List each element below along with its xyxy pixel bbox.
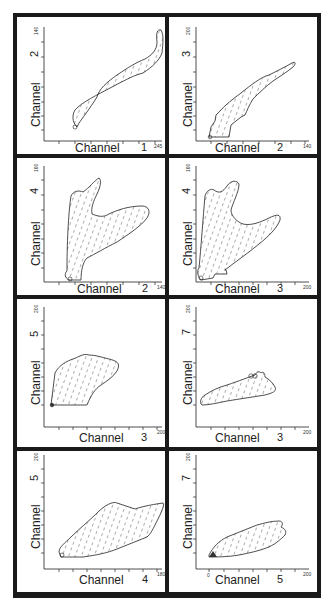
y-axis-label: Channel [29, 504, 43, 549]
x-axis-channel-number: 2 [277, 141, 283, 153]
x-axis-max: 140 [303, 143, 311, 149]
y-axis-channel-number: 5 [28, 475, 40, 481]
x-axis-max: 245 [154, 143, 162, 149]
y-axis-channel-number: 3 [180, 51, 192, 57]
y-axis-max: 160 [33, 164, 39, 172]
x-axis-zero: 0 [207, 572, 210, 578]
y-axis-label: Channel [29, 360, 43, 405]
x-axis-label: Channel [215, 141, 260, 154]
gate-region [209, 521, 286, 557]
y-axis-channel-number: 4 [180, 188, 192, 194]
x-axis-label: Channel [75, 141, 120, 154]
x-axis-label: Channel [79, 573, 124, 587]
y-axis-max: 200 [33, 305, 39, 313]
y-axis-label: Channel [181, 360, 195, 405]
y-axis-label: Channel [181, 504, 195, 549]
x-axis-channel-number: 3 [277, 431, 283, 443]
y-axis-max: 200 [185, 305, 191, 313]
y-axis-max: 140 [33, 27, 39, 35]
x-axis-label: Channel [215, 573, 260, 587]
x-axis-max: 200 [303, 284, 311, 290]
x-axis-channel-number: 2 [142, 282, 148, 294]
y-axis-channel-number: 5 [28, 331, 40, 337]
x-axis-max: 200 [157, 429, 165, 435]
plot-panel-ch2-vs-ch3: 200 3 Channel Channel 2 140 [169, 17, 317, 154]
y-axis-channel-number: 4 [28, 188, 40, 194]
x-axis-max: 140 [157, 284, 165, 290]
x-axis-label: Channel [215, 282, 260, 295]
plot-panel-ch1-vs-ch2: 140 2 Channel Channel 1 245 [17, 17, 165, 154]
x-axis-max: 180 [157, 571, 165, 577]
x-axis-channel-number: 4 [142, 573, 148, 585]
gate-region [65, 178, 149, 280]
y-axis-channel-number: 7 [180, 475, 192, 481]
plot-panel-ch3-vs-ch7: 200 7 Channel Channel 3 200 [169, 299, 317, 447]
y-axis-max: 160 [185, 164, 191, 172]
plot-panel-ch3-vs-ch5: 200 5 Channel Channel 3 200 [17, 299, 165, 447]
y-axis-label: Channel [29, 82, 43, 127]
x-axis-max: 200 [303, 571, 311, 577]
y-axis-label: Channel [181, 82, 195, 127]
y-axis-label: Channel [29, 221, 43, 266]
plot-grid: 140 2 Channel Channel 1 245 200 3 Channe… [13, 13, 321, 598]
y-axis-max: 200 [185, 27, 191, 35]
y-axis-max: 200 [185, 453, 191, 461]
y-axis-channel-number: 7 [180, 329, 192, 335]
gate-region [201, 372, 276, 405]
plot-panel-ch4-vs-ch5: 200 5 Channel Channel 4 180 [17, 451, 165, 592]
gate-region [198, 181, 280, 280]
x-axis-channel-number: 5 [277, 573, 283, 585]
y-axis-max: 200 [33, 453, 39, 461]
plot-panel-ch5-vs-ch7: 200 7 Channel 0 Channel 5 200 [169, 451, 317, 592]
x-axis-label: Channel [79, 431, 124, 445]
gate-region [209, 62, 295, 137]
y-axis-channel-number: 2 [28, 51, 40, 57]
x-axis-label: Channel [77, 282, 122, 295]
x-axis-channel-number: 3 [277, 282, 283, 294]
x-axis-max: 200 [303, 429, 311, 435]
plot-panel-ch2-vs-ch4: 160 4 Channel Channel 2 140 [17, 158, 165, 295]
gate-region [59, 502, 164, 557]
gate-region [73, 30, 163, 127]
x-axis-label: Channel [215, 431, 260, 445]
plot-panel-ch3-vs-ch4: 160 4 Channel Channel 3 200 [169, 158, 317, 295]
x-axis-channel-number: 1 [141, 141, 147, 153]
y-axis-label: Channel [181, 221, 195, 266]
x-axis-channel-number: 3 [141, 431, 147, 443]
gate-region [51, 354, 119, 405]
